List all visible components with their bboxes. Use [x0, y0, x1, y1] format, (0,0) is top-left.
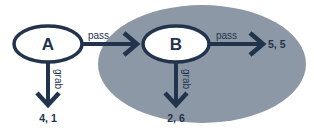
edge-a-grab-label: grab	[53, 69, 64, 89]
payoff-a-grab: 4, 1	[39, 112, 57, 124]
node-b-label: B	[170, 35, 182, 54]
edge-b-pass-label: pass	[216, 30, 237, 41]
edge-a-pass-label: pass	[88, 30, 109, 41]
game-tree-diagram: pass grab pass grab A B 4, 1 2, 6 5, 5	[0, 0, 314, 131]
edge-b-grab-label: grab	[181, 69, 192, 89]
node-a-label: A	[42, 35, 54, 54]
payoff-b-grab: 2, 6	[167, 112, 185, 124]
payoff-b-pass: 5, 5	[268, 38, 286, 50]
subgame-shaded-region	[98, 5, 306, 123]
